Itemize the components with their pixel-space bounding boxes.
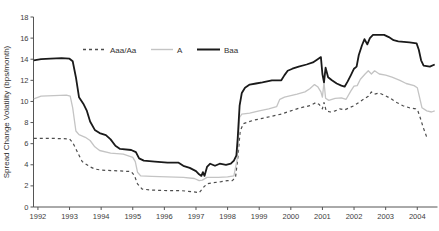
x-axis: 1992199319941995199619971998199920002001…	[30, 207, 426, 221]
x-tick-label: 1995	[124, 212, 141, 221]
y-tick-label: 14	[20, 55, 28, 64]
x-tick-label: 2000	[282, 212, 299, 221]
y-tick-label: 16	[20, 34, 28, 43]
y-tick-label: 2	[24, 181, 28, 190]
series-lines	[34, 35, 435, 193]
legend: Aaa/Aa A Baa	[83, 46, 239, 55]
legend-item-aaa-aa: Aaa/Aa	[83, 46, 137, 55]
x-tick-label: 2003	[377, 212, 394, 221]
x-tick-label: 1993	[61, 212, 78, 221]
y-axis-title: Spread Change Volatility (bps/month)	[2, 45, 11, 178]
legend-item-baa: Baa	[197, 46, 239, 55]
legend-label-a: A	[177, 46, 183, 55]
x-tick-label: 2002	[346, 212, 363, 221]
series-line-baa	[34, 35, 435, 176]
y-tick-label: 6	[24, 139, 28, 148]
x-tick-label: 1992	[30, 212, 47, 221]
figure-container: Spread Change Volatility (bps/month) 024…	[0, 0, 439, 231]
x-tick-label: 1997	[188, 212, 205, 221]
x-tick-label: 1996	[156, 212, 173, 221]
series-line-a	[34, 71, 435, 181]
x-tick-label: 2004	[409, 212, 426, 221]
y-tick-label: 4	[24, 160, 28, 169]
y-tick-label: 10	[20, 97, 28, 106]
y-tick-label: 12	[20, 76, 28, 85]
y-tick-label: 18	[20, 13, 28, 22]
legend-label-aaa-aa: Aaa/Aa	[110, 46, 137, 55]
x-tick-label: 1994	[93, 212, 110, 221]
x-tick-label: 2001	[314, 212, 331, 221]
legend-item-a: A	[151, 46, 183, 55]
spread-volatility-chart: Spread Change Volatility (bps/month) 024…	[0, 0, 439, 231]
x-tick-label: 1999	[251, 212, 268, 221]
series-line-aaa-aa	[34, 92, 427, 193]
y-tick-label: 8	[24, 118, 28, 127]
y-tick-label: 0	[24, 203, 28, 212]
y-axis: 024681012141618	[20, 13, 33, 212]
x-tick-label: 1998	[219, 212, 236, 221]
legend-label-baa: Baa	[224, 46, 239, 55]
